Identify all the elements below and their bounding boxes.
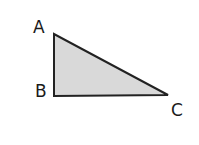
triangle-abc xyxy=(54,34,168,96)
vertex-label-b: B xyxy=(35,81,47,101)
triangle-diagram: A B C xyxy=(0,0,199,145)
vertex-label-a: A xyxy=(33,17,45,37)
vertex-label-c: C xyxy=(171,100,183,120)
